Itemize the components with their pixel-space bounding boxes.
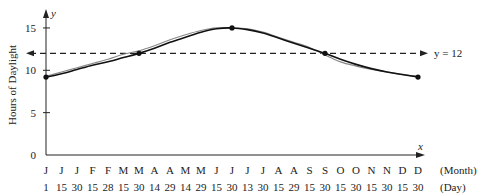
- y-tick-label: 10: [25, 64, 37, 76]
- x-month-label: F: [89, 164, 95, 176]
- reference-arrow-right-icon: [420, 50, 428, 56]
- day-row-label: (Day): [440, 181, 466, 194]
- reference-line: y = 12: [26, 47, 462, 59]
- x-day-label: 14: [149, 181, 161, 193]
- marked-point: [229, 25, 234, 30]
- x-month-label: A: [275, 164, 283, 176]
- x-day-label: 15: [211, 181, 223, 193]
- x-day-label: 15: [118, 181, 130, 193]
- daylight-chart: y x 051015 Hours of Daylight y = 12 J1J1…: [0, 0, 491, 195]
- y-axis-arrow-icon: [43, 9, 49, 18]
- x-month-label: A: [166, 164, 174, 176]
- x-day-label: 28: [103, 181, 115, 193]
- marked-points: [43, 25, 420, 79]
- x-month-label: D: [414, 164, 422, 176]
- marked-point: [43, 74, 48, 79]
- x-day-label: 15: [56, 181, 68, 193]
- series-lines: [46, 28, 418, 77]
- y-axis-label: Hours of Daylight: [6, 45, 18, 125]
- x-day-label: 13: [242, 181, 254, 193]
- y-tick-label: 0: [31, 149, 37, 161]
- x-day-label: 30: [258, 181, 270, 193]
- x-day-label: 15: [273, 181, 285, 193]
- x-month-label: N: [383, 164, 391, 176]
- x-day-label: 30: [227, 181, 239, 193]
- x-month-label: J: [59, 164, 64, 176]
- x-day-label: 15: [335, 181, 347, 193]
- x-axis-arrow-icon: [416, 152, 425, 158]
- x-month-label: D: [399, 164, 407, 176]
- x-month-label: J: [261, 164, 266, 176]
- x-month-label: O: [337, 164, 345, 176]
- x-day-label: 29: [289, 181, 301, 193]
- x-month-label: J: [75, 164, 80, 176]
- x-month-label: F: [105, 164, 111, 176]
- x-day-label: 30: [72, 181, 84, 193]
- x-month-label: O: [352, 164, 360, 176]
- x-day-label: 30: [382, 181, 394, 193]
- reference-arrow-left-icon: [26, 50, 34, 56]
- x-day-label: 1: [43, 181, 49, 193]
- x-tick-labels: J1J15J30F15F28M15M30A14A29M14M29J15J30J1…: [43, 164, 424, 193]
- marked-point: [322, 51, 327, 56]
- x-month-label: A: [290, 164, 298, 176]
- x-day-label: 30: [320, 181, 332, 193]
- x-month-label: J: [245, 164, 250, 176]
- x-month-label: M: [119, 164, 129, 176]
- x-month-label: J: [230, 164, 235, 176]
- x-month-label: N: [368, 164, 376, 176]
- x-day-label: 30: [413, 181, 425, 193]
- x-month-label: S: [322, 164, 328, 176]
- x-day-label: 30: [134, 181, 146, 193]
- y-axis-symbol: y: [50, 7, 56, 19]
- x-month-label: M: [196, 164, 206, 176]
- y-tick-label: 15: [25, 22, 37, 34]
- x-month-label: J: [44, 164, 49, 176]
- x-day-label: 15: [304, 181, 316, 193]
- x-month-label: M: [181, 164, 191, 176]
- x-month-label: A: [151, 164, 159, 176]
- month-row-label: (Month): [440, 164, 477, 177]
- x-axis-symbol: x: [417, 140, 423, 152]
- axes: y x: [43, 7, 425, 158]
- series-line-model-curve: [46, 28, 418, 77]
- x-day-label: 15: [366, 181, 378, 193]
- x-day-label: 30: [351, 181, 363, 193]
- y-tick-label: 5: [31, 107, 37, 119]
- series-line-actual-data: [46, 28, 418, 77]
- marked-point: [415, 74, 420, 79]
- x-month-label: J: [214, 164, 219, 176]
- x-month-label: M: [134, 164, 144, 176]
- reference-line-label: y = 12: [434, 47, 462, 59]
- x-day-label: 15: [397, 181, 409, 193]
- x-day-label: 29: [165, 181, 177, 193]
- marked-point: [136, 51, 141, 56]
- x-day-label: 14: [180, 181, 192, 193]
- x-month-label: S: [306, 164, 312, 176]
- x-day-label: 15: [87, 181, 99, 193]
- x-day-label: 29: [196, 181, 208, 193]
